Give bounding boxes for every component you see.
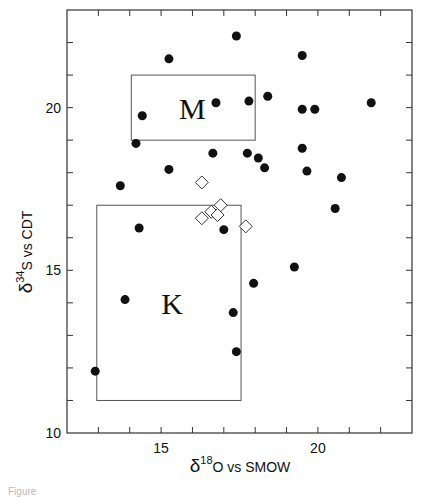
filled-circle-point [263,92,272,101]
filled-circle-point [219,225,228,234]
filled-circle-point [164,165,173,174]
tick-labels: 1520101520 [45,100,325,456]
x-tick-label: 20 [310,440,326,456]
filled-circle-point [260,163,269,172]
filled-circle-point [337,173,346,182]
filled-circle-point [249,279,258,288]
x-tick-label: 15 [153,440,169,456]
data-points [91,32,376,376]
filled-circle-point [135,224,144,233]
region-boxes: MK [97,75,255,400]
scatter-chart: MK 1520101520 δ18O vs SMOW δ34S vs CDT [0,0,426,498]
filled-circle-point [164,54,173,63]
filled-circle-point [254,154,263,163]
filled-circle-point [290,263,299,272]
open-diamond-point [195,176,208,189]
filled-circle-point [243,149,252,158]
x-axis-label: δ18O vs SMOW [190,454,291,476]
filled-circle-point [208,149,217,158]
filled-circle-point [138,111,147,120]
axis-ticks [67,10,412,433]
y-axis-label: δ34S vs CDT [14,210,36,293]
filled-circle-point [298,51,307,60]
filled-circle-point [298,105,307,114]
region-label-m: M [179,92,206,125]
region-label-k: K [161,287,183,320]
filled-circle-point [91,367,100,376]
y-tick-label: 10 [45,425,61,441]
plot-frame [67,10,412,433]
filled-circle-point [211,98,220,107]
filled-circle-point [116,181,125,190]
filled-circle-point [302,167,311,176]
filled-circle-point [232,347,241,356]
figure-caption: Figure [8,486,36,497]
filled-circle-point [244,97,253,106]
y-tick-label: 20 [45,100,61,116]
filled-circle-point [367,98,376,107]
plot-border [67,10,412,433]
filled-circle-point [132,139,141,148]
filled-circle-point [310,105,319,114]
filled-circle-point [121,295,130,304]
filled-circle-point [331,204,340,213]
filled-circle-point [232,32,241,41]
y-tick-label: 15 [45,262,61,278]
filled-circle-point [229,308,238,317]
filled-circle-point [298,144,307,153]
